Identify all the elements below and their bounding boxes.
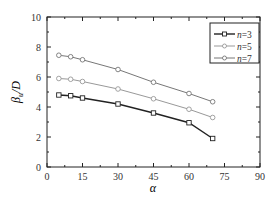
data-point <box>57 53 62 58</box>
data-point <box>187 91 192 96</box>
data-point <box>80 57 85 62</box>
data-point <box>80 79 85 84</box>
y-axis-label: βu/D <box>9 81 25 104</box>
series-group <box>57 53 215 141</box>
x-tick-label: 0 <box>45 171 50 182</box>
data-point <box>210 136 214 140</box>
x-axis-label: α <box>150 181 157 195</box>
data-point <box>68 54 73 59</box>
y-tick-label: 10 <box>31 12 41 23</box>
x-tick-label: 60 <box>184 171 194 182</box>
y-tick-label: 6 <box>36 72 41 83</box>
data-point <box>68 77 73 82</box>
x-tick-label: 90 <box>255 171 265 182</box>
data-point <box>57 93 61 97</box>
data-point <box>116 102 120 106</box>
data-point <box>151 80 156 85</box>
data-point <box>210 115 215 120</box>
data-point <box>187 107 192 112</box>
legend-label: n=3 <box>237 30 252 40</box>
data-point <box>68 94 72 98</box>
y-tick-label: 0 <box>36 162 41 173</box>
y-tick-label: 2 <box>36 132 41 143</box>
data-point <box>187 121 191 125</box>
x-tick-label: 15 <box>78 171 88 182</box>
legend-label: n=7 <box>237 54 252 64</box>
data-point <box>151 96 156 101</box>
data-point <box>80 96 84 100</box>
x-tick-label: 75 <box>220 171 230 182</box>
series-n-3 <box>57 93 215 141</box>
data-point <box>116 67 121 72</box>
line-chart: 01530456075900246810 n=3n=5n=7 α βu/D <box>0 0 279 199</box>
data-point <box>151 111 155 115</box>
legend: n=3n=5n=7 <box>210 23 259 64</box>
data-point <box>116 87 121 92</box>
y-tick-label: 8 <box>36 42 41 53</box>
x-tick-label: 30 <box>113 171 123 182</box>
legend-label: n=5 <box>237 42 252 52</box>
data-point <box>57 76 62 81</box>
y-tick-label: 4 <box>36 102 41 113</box>
data-point <box>210 99 215 104</box>
